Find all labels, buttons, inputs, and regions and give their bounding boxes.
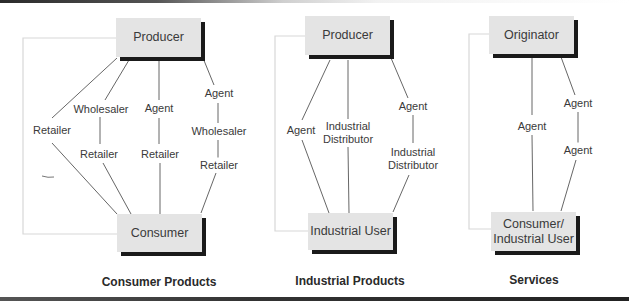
panel-caption: Consumer Products <box>102 275 217 289</box>
channel-label-agent: Agent <box>398 99 429 114</box>
channel-label-industrial-distributor: Industrial Distributor <box>322 119 374 147</box>
channel-label-retailer: Retailer <box>140 147 180 162</box>
node-label: Producer <box>322 28 373 43</box>
node-label: Originator <box>504 28 559 43</box>
node-label-line-1: Consumer/ <box>503 217 564 232</box>
channel-label-agent: Agent <box>563 143 594 158</box>
node-label-line-2: Industrial User <box>493 232 574 247</box>
channel-label-agent: Agent <box>144 101 175 116</box>
node-industrial-user: Industrial User <box>308 213 393 250</box>
channel-label-agent: Agent <box>286 123 317 138</box>
channel-label-agent: Agent <box>563 96 594 111</box>
channel-label-agent: Agent <box>204 86 235 101</box>
label-line: Distributor <box>388 159 438 172</box>
node-producer: Producer <box>305 16 390 55</box>
panel-caption: Industrial Products <box>295 274 404 288</box>
label-line: Distributor <box>323 133 373 146</box>
node-originator: Originator <box>489 16 574 54</box>
node-consumer: Consumer <box>117 214 202 252</box>
bottom-rule <box>0 297 629 301</box>
channel-label-wholesaler: Wholesaler <box>72 102 129 117</box>
node-consumer-industrial-user: Consumer/ Industrial User <box>491 212 576 251</box>
label-line: Industrial <box>323 120 373 133</box>
node-label: Industrial User <box>310 224 391 239</box>
panel-caption: Services <box>509 273 558 287</box>
node-label: Producer <box>133 30 184 45</box>
channel-label-industrial-distributor: Industrial Distributor <box>387 145 439 173</box>
direct-channel-bracket-services <box>469 34 491 229</box>
channel-label-wholesaler: Wholesaler <box>190 124 247 139</box>
channel-label-retailer: Retailer <box>79 147 119 162</box>
channel-label-retailer: Retailer <box>32 123 72 138</box>
label-line: Industrial <box>388 146 438 159</box>
channel-label-retailer: Retailer <box>199 158 239 173</box>
node-producer: Producer <box>116 18 201 57</box>
channel-label-agent: Agent <box>517 119 548 134</box>
node-label: Consumer <box>131 226 189 241</box>
